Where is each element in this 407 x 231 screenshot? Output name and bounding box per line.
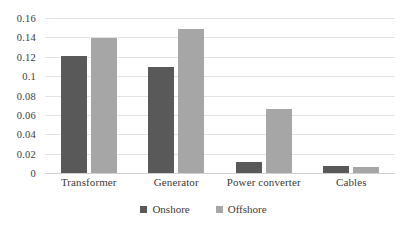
x-axis-category-label: Generator — [133, 176, 221, 194]
y-axis-tick-label: 0.08 — [17, 90, 36, 101]
bar-groups — [45, 18, 395, 173]
y-axis-tick-label: 0.16 — [17, 13, 36, 24]
y-axis-tick-label: 0 — [31, 168, 36, 179]
legend-swatch-icon — [216, 206, 223, 213]
y-axis-tick-label: 0.04 — [17, 129, 36, 140]
bar-group — [220, 18, 308, 173]
bar-chart: 0.160.140.120.10.080.060.040.020 Transfo… — [0, 0, 407, 231]
bar-group — [45, 18, 133, 173]
bar-onshore[interactable] — [61, 56, 87, 173]
legend-entry-offshore[interactable]: Offshore — [216, 203, 267, 215]
x-axis-category-label: Power converter — [220, 176, 308, 194]
legend-swatch-icon — [140, 206, 147, 213]
axis-baseline — [45, 173, 395, 174]
y-axis-tick-label: 0.14 — [17, 32, 36, 43]
bar-offshore[interactable] — [178, 29, 204, 173]
x-axis-category-label: Cables — [308, 176, 396, 194]
legend-label: Onshore — [152, 203, 189, 215]
y-axis: 0.160.140.120.10.080.060.040.020 — [0, 18, 40, 173]
bar-offshore[interactable] — [91, 38, 117, 173]
bar-offshore[interactable] — [266, 109, 292, 173]
legend-entry-onshore[interactable]: Onshore — [140, 203, 189, 215]
bar-group — [133, 18, 221, 173]
bar-onshore[interactable] — [323, 166, 349, 173]
y-axis-tick-label: 0.12 — [17, 51, 36, 62]
bar-group — [308, 18, 396, 173]
bar-offshore[interactable] — [353, 167, 379, 173]
y-axis-tick-label: 0.06 — [17, 109, 36, 120]
chart-legend: OnshoreOffshore — [0, 203, 407, 215]
x-axis: TransformerGeneratorPower converterCable… — [45, 176, 395, 194]
y-axis-tick-label: 0.1 — [22, 71, 36, 82]
legend-label: Offshore — [228, 203, 267, 215]
x-axis-category-label: Transformer — [45, 176, 133, 194]
bar-onshore[interactable] — [148, 67, 174, 173]
y-axis-tick-label: 0.02 — [17, 148, 36, 159]
bar-onshore[interactable] — [236, 162, 262, 173]
